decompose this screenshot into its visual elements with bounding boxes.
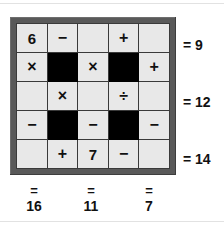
cell-value: × — [78, 59, 108, 75]
cell-value: − — [109, 146, 139, 162]
cell-value: ÷ — [109, 88, 139, 104]
grid-cell-r4c3[interactable]: − — [78, 111, 109, 140]
top-divider — [0, 3, 224, 4]
grid-cell-r5c5[interactable] — [139, 140, 170, 169]
grid-cell-r1c2[interactable]: − — [47, 24, 78, 53]
equals-sign: = — [129, 184, 169, 199]
column-sum-5: = 7 — [129, 184, 169, 214]
cell-value: + — [109, 30, 139, 46]
cell-value: × — [17, 59, 47, 75]
row-sum-1: = 9 — [183, 38, 203, 52]
grid-cell-r4c4-blocked — [108, 111, 139, 140]
cell-value: + — [139, 59, 169, 75]
puzzle-canvas: 6 − + × × + × ÷ — [0, 0, 224, 228]
cell-value: 7 — [78, 147, 108, 162]
bottom-divider — [0, 221, 224, 222]
grid-cell-r4c2-blocked — [47, 111, 78, 140]
cell-value: − — [139, 117, 169, 133]
equals-sign: = — [14, 184, 54, 199]
grid-cell-r3c3[interactable] — [78, 82, 109, 111]
grid-cell-r1c1[interactable]: 6 — [17, 24, 48, 53]
puzzle-grid: 6 − + × × + × ÷ — [16, 23, 170, 169]
grid-cell-r5c1[interactable] — [17, 140, 48, 169]
grid-cell-r5c2[interactable]: + — [47, 140, 78, 169]
grid-cell-r5c3[interactable]: 7 — [78, 140, 109, 169]
cell-value: − — [48, 30, 78, 46]
table-row: × ÷ — [17, 82, 170, 111]
row-sum-3: = 12 — [183, 95, 211, 109]
grid-cell-r2c3[interactable]: × — [78, 53, 109, 82]
table-row: × × + — [17, 53, 170, 82]
cell-value: − — [78, 117, 108, 133]
cell-value: + — [48, 146, 78, 162]
column-sum-value: 11 — [71, 199, 111, 215]
row-sum-5: = 14 — [183, 152, 211, 166]
grid-cell-r4c5[interactable]: − — [139, 111, 170, 140]
cell-value: × — [48, 88, 78, 104]
grid-cell-r1c3[interactable] — [78, 24, 109, 53]
table-row: 6 − + — [17, 24, 170, 53]
grid-cell-r2c1[interactable]: × — [17, 53, 48, 82]
grid-cell-r5c4[interactable]: − — [108, 140, 139, 169]
grid-cell-r3c1[interactable] — [17, 82, 48, 111]
grid-cell-r2c2-blocked — [47, 53, 78, 82]
column-sum-value: 16 — [14, 199, 54, 215]
puzzle-grid-frame: 6 − + × × + × ÷ — [10, 17, 176, 175]
cell-value: − — [17, 117, 47, 133]
grid-cell-r1c4[interactable]: + — [108, 24, 139, 53]
grid-cell-r3c5[interactable] — [139, 82, 170, 111]
grid-cell-r1c5[interactable] — [139, 24, 170, 53]
grid-cell-r3c2[interactable]: × — [47, 82, 78, 111]
grid-cell-r4c1[interactable]: − — [17, 111, 48, 140]
cell-value: 6 — [17, 31, 47, 46]
column-sum-value: 7 — [129, 199, 169, 215]
grid-cell-r2c4-blocked — [108, 53, 139, 82]
grid-cell-r3c4[interactable]: ÷ — [108, 82, 139, 111]
table-row: + 7 − — [17, 140, 170, 169]
table-row: − − − — [17, 111, 170, 140]
column-sum-1: = 16 — [14, 184, 54, 214]
grid-cell-r2c5[interactable]: + — [139, 53, 170, 82]
equals-sign: = — [71, 184, 111, 199]
column-sum-3: = 11 — [71, 184, 111, 214]
